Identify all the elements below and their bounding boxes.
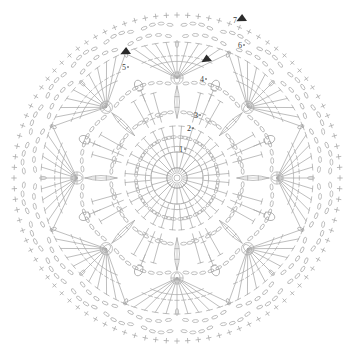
chain-stitch-icon bbox=[110, 34, 117, 39]
crochet-top-bar-icon bbox=[199, 223, 204, 226]
single-crochet-icon bbox=[274, 47, 278, 50]
petal-leaf-icon bbox=[177, 86, 180, 118]
chain-stitch-icon bbox=[321, 128, 325, 135]
chain-stitch-icon bbox=[89, 126, 95, 133]
round-number-label-6: 6 bbox=[238, 41, 242, 50]
chain-stitch-icon bbox=[206, 26, 213, 31]
crochet-bar-icon bbox=[90, 98, 93, 101]
chain-stitch-icon bbox=[76, 295, 83, 301]
crochet-bar-icon bbox=[148, 295, 152, 296]
chain-stitch-icon bbox=[30, 230, 35, 237]
chain-stitch-icon bbox=[60, 87, 66, 94]
chain-stitch-icon bbox=[119, 95, 126, 101]
start-arrow-round-7 bbox=[236, 13, 248, 25]
chain-stitch-icon bbox=[25, 207, 30, 214]
single-crochet-icon bbox=[35, 95, 37, 99]
chain-stitch-icon bbox=[54, 255, 60, 262]
chain-stitch-icon bbox=[270, 149, 274, 156]
round-label-dot bbox=[205, 78, 207, 80]
chain-stitch-icon bbox=[316, 238, 321, 245]
chain-stitch-icon bbox=[300, 266, 306, 273]
chain-stitch-icon bbox=[94, 120, 100, 127]
puff-stem-icon bbox=[254, 210, 265, 215]
chain-stitch-icon bbox=[225, 217, 231, 223]
crochet-top-bar-icon bbox=[222, 200, 225, 205]
single-crochet-icon bbox=[257, 36, 261, 38]
chain-stitch-icon bbox=[229, 31, 236, 36]
chain-stitch-icon bbox=[280, 81, 287, 87]
crochet-bar-icon bbox=[61, 186, 62, 190]
chain-stitch-icon bbox=[253, 120, 259, 127]
chain-stitch-icon bbox=[181, 23, 188, 27]
chain-stitch-icon bbox=[80, 200, 84, 207]
chain-stitch-icon bbox=[86, 289, 93, 295]
chain-stitch-icon bbox=[119, 254, 126, 260]
chain-stitch-icon bbox=[113, 101, 119, 108]
crochet-top-bar-icon bbox=[87, 72, 92, 76]
chain-stitch-icon bbox=[53, 273, 59, 280]
chain-stitch-icon bbox=[113, 248, 119, 255]
crochet-bar-icon bbox=[84, 95, 87, 98]
chain-stitch-icon bbox=[71, 288, 77, 295]
chain-stitch-icon bbox=[45, 92, 50, 99]
crochet-bar-icon bbox=[290, 196, 291, 200]
chain-stitch-icon bbox=[183, 271, 189, 275]
chain-stitch-icon bbox=[80, 281, 86, 288]
crochet-top-bar-icon bbox=[252, 219, 255, 224]
chain-stitch-icon bbox=[22, 150, 26, 157]
chain-stitch-icon bbox=[47, 237, 51, 244]
chain-stitch-icon bbox=[111, 48, 118, 52]
chain-stitch-icon bbox=[244, 311, 251, 317]
chain-stitch-icon bbox=[314, 137, 319, 144]
chain-stitch-icon bbox=[60, 278, 67, 284]
crochet-bar-icon bbox=[58, 149, 59, 153]
chain-stitch-icon bbox=[157, 272, 163, 275]
chain-stitch-icon bbox=[294, 273, 300, 280]
double-crochet-icon bbox=[137, 145, 156, 161]
treble-crochet-icon bbox=[134, 101, 149, 127]
crochet-top-bar-icon bbox=[199, 131, 204, 134]
chain-stitch-icon bbox=[182, 318, 189, 322]
chain-stitch-icon bbox=[110, 181, 113, 187]
chain-stitch-icon bbox=[127, 30, 134, 34]
double-crochet-icon bbox=[153, 202, 165, 224]
chain-stitch-icon bbox=[47, 112, 51, 119]
single-crochet-icon bbox=[76, 47, 80, 50]
chain-stitch-icon bbox=[254, 296, 261, 302]
round-label-dot bbox=[199, 114, 201, 116]
chain-stitch-icon bbox=[288, 263, 294, 270]
double-crochet-icon bbox=[201, 154, 223, 166]
chain-stitch-icon bbox=[287, 72, 294, 78]
single-crochet-icon bbox=[266, 41, 270, 44]
crochet-bar-icon bbox=[298, 189, 299, 193]
chain-stitch-icon bbox=[270, 184, 274, 190]
chain-stitch-icon bbox=[80, 192, 83, 198]
chain-stitch-icon bbox=[165, 271, 171, 275]
chain-stitch-icon bbox=[222, 260, 229, 266]
chain-stitch-icon bbox=[53, 77, 59, 84]
single-crochet-icon bbox=[196, 339, 201, 340]
petal-leaf-icon bbox=[85, 176, 117, 179]
chain-stitch-icon bbox=[310, 104, 316, 111]
chain-stitch-icon bbox=[89, 223, 95, 230]
chain-stitch-icon bbox=[32, 193, 35, 199]
crochet-top-bar-icon bbox=[131, 253, 136, 256]
crochet-top-bar-icon bbox=[152, 43, 158, 44]
single-crochet-icon bbox=[196, 16, 201, 17]
chain-stitch-icon bbox=[222, 90, 229, 96]
chain-stitch-icon bbox=[229, 254, 236, 260]
crochet-top-bar-icon bbox=[131, 306, 137, 308]
chain-stitch-icon bbox=[265, 49, 272, 55]
chain-stitch-icon bbox=[33, 238, 38, 245]
chain-stitch-icon bbox=[29, 128, 33, 135]
chain-stitch-icon bbox=[259, 126, 265, 133]
chain-stitch-icon bbox=[256, 305, 263, 310]
petal-leaf-icon bbox=[85, 178, 117, 181]
crochet-bar-icon bbox=[261, 255, 264, 258]
puff-stem-icon bbox=[141, 90, 146, 101]
chain-stitch-icon bbox=[158, 331, 164, 334]
single-crochet-icon bbox=[336, 144, 337, 149]
chain-stitch-icon bbox=[123, 133, 129, 139]
chain-stitch-icon bbox=[303, 112, 307, 119]
chain-stitch-icon bbox=[40, 221, 46, 228]
